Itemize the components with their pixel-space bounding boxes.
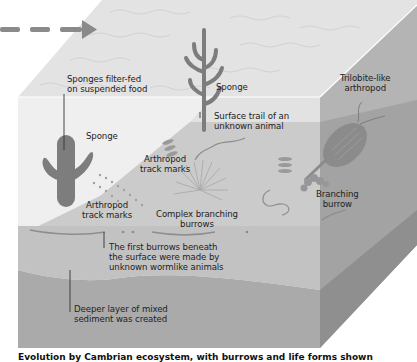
label-line: unknown wormlike animals: [109, 262, 224, 272]
label-arthropod-tracks-upper: Arthropod track marks: [140, 154, 190, 174]
label-branching-burrow: Branching burrow: [316, 189, 359, 209]
label-line: burrow: [316, 199, 359, 209]
label-line: Sponges filter-fed: [67, 74, 147, 84]
label-line: unknown animal: [214, 121, 289, 131]
label-sponge-top: Sponge: [216, 82, 248, 92]
label-line: track marks: [140, 164, 190, 174]
label-sponges-filter-fed: Sponges filter-fed on suspended food: [67, 74, 147, 94]
label-line: Arthropod: [82, 200, 132, 210]
label-line: Complex branching: [156, 209, 238, 219]
label-line: arthropod: [340, 83, 391, 93]
label-line: The first burrows beneath: [109, 242, 224, 252]
figure-caption: Evolution by Cambrian ecosystem, with bu…: [18, 352, 373, 362]
label-complex-burrows: Complex branching burrows: [156, 209, 238, 229]
label-line: Trilobite-like: [340, 73, 391, 83]
label-line: on suspended food: [67, 84, 147, 94]
label-deeper-layer: Deeper layer of mixed sediment was creat…: [74, 304, 168, 324]
label-arthropod-tracks-lower: Arthropod track marks: [82, 200, 132, 220]
label-line: Arthropod: [140, 154, 190, 164]
label-line: Surface trail of an: [214, 111, 289, 121]
label-surface-trail: Surface trail of an unknown animal: [214, 111, 289, 131]
label-sponge-left: Sponge: [86, 131, 118, 141]
label-line: Branching: [316, 189, 359, 199]
label-line: Deeper layer of mixed: [74, 304, 168, 314]
label-line: track marks: [82, 210, 132, 220]
label-trilobite: Trilobite-like arthropod: [340, 73, 391, 93]
label-line: burrows: [156, 219, 238, 229]
label-line: sediment was created: [74, 314, 168, 324]
label-first-burrows: The first burrows beneath the surface we…: [109, 242, 224, 272]
label-line: the surface were made by: [109, 252, 224, 262]
dashed-arrow-icon: [0, 20, 97, 39]
